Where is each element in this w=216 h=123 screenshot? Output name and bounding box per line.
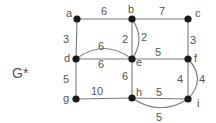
edge-b-e [132, 19, 139, 59]
node-label-i: i [197, 97, 199, 109]
edge-weight-label: 5 [156, 111, 162, 123]
node-label-c: c [195, 7, 201, 19]
node-g [72, 95, 79, 102]
node-c [184, 15, 191, 22]
edge-weight-label: 7 [159, 5, 165, 17]
node-e [128, 55, 135, 62]
node-f [184, 55, 191, 62]
edge-weight-label: 4 [177, 73, 183, 85]
edge-f-i [188, 59, 198, 99]
edge-weight-label: 2 [122, 33, 128, 45]
edge-h-i [132, 98, 188, 108]
edge-a-d [76, 19, 77, 59]
node-label-b: b [128, 3, 134, 15]
graph-diagram: 67322366556441055 abcdefghi G* [0, 0, 216, 123]
edge-weight-label: 5 [155, 46, 161, 58]
edge-weight-label: 2 [141, 31, 147, 43]
node-label-a: a [66, 7, 73, 19]
edge-weight-label: 6 [98, 58, 104, 70]
edge-weight-label: 6 [101, 5, 107, 17]
edge-weight-label: 3 [63, 33, 69, 45]
node-d [72, 55, 79, 62]
edge-weight-label: 6 [122, 70, 128, 82]
node-label-g: g [63, 92, 69, 104]
node-b [128, 15, 135, 22]
graph-title: G* [12, 65, 29, 81]
node-label-f: f [194, 52, 198, 64]
edge-g-h [76, 98, 132, 99]
node-h [128, 94, 135, 101]
edge-weight-label: 5 [156, 86, 162, 98]
edge-weight-label: 3 [190, 34, 196, 46]
node-i [184, 95, 191, 102]
edge-h-i [132, 98, 188, 99]
node-a [73, 15, 80, 22]
node-label-d: d [64, 52, 70, 64]
edge-weight-label: 5 [63, 73, 69, 85]
node-label-e: e [136, 56, 142, 68]
edge-weight-label: 4 [199, 73, 205, 85]
edge-weight-label: 10 [91, 85, 103, 97]
node-label-h: h [136, 86, 142, 98]
edge-weight-label: 6 [98, 40, 104, 52]
